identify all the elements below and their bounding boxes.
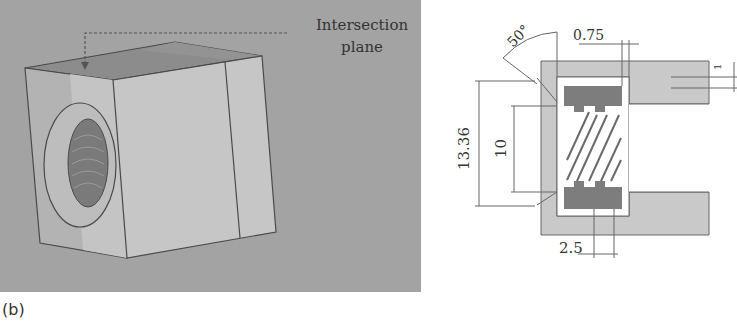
- insert-top: [564, 86, 622, 106]
- dim-pitch: 2.5: [559, 239, 583, 257]
- dim-wall-thickness: 0.75: [573, 27, 604, 43]
- annotation-line1: Intersection: [316, 16, 408, 34]
- annotation-line2: plane: [341, 38, 383, 56]
- figure-label: (b): [2, 300, 25, 319]
- block-render-panel: Intersection plane: [0, 0, 421, 292]
- insert-bottom: [564, 187, 622, 209]
- dim-outer-diameter: 13.36: [455, 127, 473, 170]
- dim-inner-diameter: 10: [492, 139, 510, 158]
- front-face: [113, 56, 276, 258]
- bore-opening: [629, 104, 709, 192]
- cross-section-panel: 50° 0.75 1 13.36 10 2.5: [421, 0, 737, 300]
- dim-small-gap: 1: [712, 64, 723, 70]
